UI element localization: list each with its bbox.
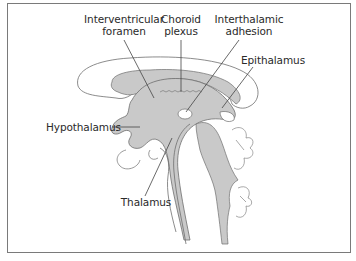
mammillary-outline (149, 150, 158, 159)
label-epithalamus: Epithalamus (238, 54, 308, 66)
fourth-ventricle (196, 123, 238, 244)
label-hypothalamus: Hypothalamus (46, 121, 112, 133)
label-thalamus: Thalamus (116, 196, 176, 208)
cerebellum-folia (232, 128, 253, 218)
interthalamic-adhesion-shape (178, 109, 192, 119)
label-choroid-plexus: Choroid plexus (151, 13, 211, 37)
label-interthalamic-adhesion: Interthalamic adhesion (204, 13, 294, 37)
pituitary-outline (117, 150, 140, 169)
